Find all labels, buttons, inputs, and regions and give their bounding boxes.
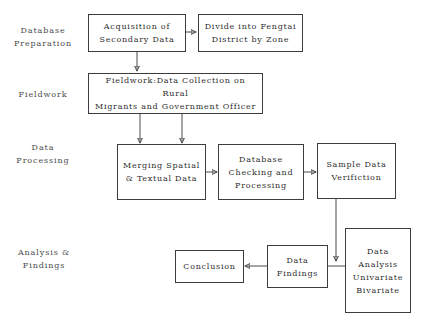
stage-label-analysis-findings: Analysis & Findings (4, 246, 84, 272)
stage-label-database-preparation: Database Preparation (4, 24, 82, 50)
node-conclusion[interactable]: Conclusion (175, 250, 244, 283)
node-database-checking-processing[interactable]: Database Checking and Processing (218, 144, 304, 200)
node-divide-fengtai-zone[interactable]: Divide into Fengtai District by Zone (198, 14, 303, 52)
stage-label-data-processing: Data Processing (4, 141, 82, 167)
stage-label-fieldwork: Fieldwork (4, 88, 82, 101)
node-merging-spatial-textual[interactable]: Merging Spatial & Textual Data (117, 144, 206, 200)
node-data-findings[interactable]: Data Findings (267, 245, 328, 288)
node-data-analysis-univariate-bivariate[interactable]: Data Analysis Univariate Bivariate (345, 228, 411, 313)
node-acquisition-secondary-data[interactable]: Acquisition of Secondary Data (88, 14, 186, 52)
node-fieldwork-data-collection[interactable]: Fieldwork:Data Collection on Rural Migra… (88, 73, 263, 114)
node-sample-data-verification[interactable]: Sample Data Verifiction (317, 143, 396, 199)
flowchart-diagram: Database Preparation Fieldwork Data Proc… (0, 0, 421, 321)
